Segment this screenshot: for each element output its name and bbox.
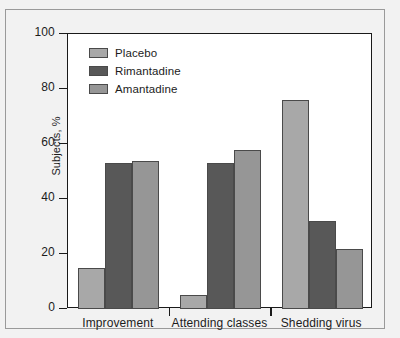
legend-item-amantadine: Amantadine	[89, 80, 209, 97]
bar-placebo-improvement	[78, 268, 105, 309]
x-axis-category-label: Shedding virus	[270, 316, 372, 330]
legend-label: Placebo	[115, 47, 157, 59]
x-axis-category-label: Attending classes	[169, 316, 271, 330]
y-axis-tick-label: 20	[41, 245, 55, 259]
legend-label: Rimantadine	[115, 65, 181, 77]
y-axis-tick-label: 0	[48, 300, 55, 314]
bar-rimantadine-attending-classes	[207, 163, 234, 309]
y-axis-tick-label: 100	[34, 25, 55, 39]
legend-item-placebo: Placebo	[89, 44, 209, 61]
y-axis-tick-mark	[59, 88, 67, 89]
y-axis-tick-mark	[59, 198, 67, 199]
x-axis-tick-mark	[169, 308, 170, 316]
y-axis-tick-label: 60	[41, 135, 55, 149]
bar-amantadine-attending-classes	[234, 150, 261, 310]
legend-item-rimantadine: Rimantadine	[89, 62, 209, 79]
legend-swatch-rimantadine	[89, 66, 108, 76]
y-axis-tick-mark	[59, 253, 67, 254]
x-axis-tick-mark	[270, 308, 271, 316]
chart-legend: PlaceboRimantadineAmantadine	[89, 44, 209, 98]
x-axis-category-label: Improvement	[67, 316, 169, 330]
y-axis-tick-label: 80	[41, 80, 55, 94]
y-axis-tick-mark	[59, 308, 67, 309]
bar-placebo-shedding-virus	[282, 100, 309, 309]
legend-swatch-placebo	[89, 48, 108, 58]
legend-label: Amantadine	[115, 83, 177, 95]
bar-amantadine-shedding-virus	[336, 249, 363, 310]
chart-figure: Subjects, % 100806040200 ImprovementAtte…	[0, 0, 400, 338]
y-axis-tick-label: 40	[41, 190, 55, 204]
y-axis-tick-mark	[59, 143, 67, 144]
bar-rimantadine-shedding-virus	[309, 221, 336, 309]
bar-amantadine-improvement	[132, 161, 159, 310]
legend-swatch-amantadine	[89, 84, 108, 94]
bar-placebo-attending-classes	[180, 295, 207, 309]
y-axis-tick-mark	[59, 33, 67, 34]
bar-rimantadine-improvement	[105, 163, 132, 309]
